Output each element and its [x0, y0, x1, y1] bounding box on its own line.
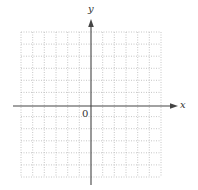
coordinate-plane: y x 0 — [0, 0, 198, 190]
grid-svg — [0, 0, 198, 190]
y-axis-arrow-icon — [88, 19, 94, 27]
axes — [13, 19, 178, 185]
origin-label: 0 — [82, 109, 88, 119]
x-axis-label: x — [180, 100, 186, 110]
y-axis-label: y — [88, 4, 94, 14]
x-axis-arrow-icon — [170, 103, 178, 109]
